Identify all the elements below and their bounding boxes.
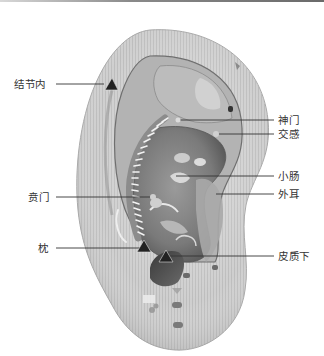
label-jiejienei: 结节内 <box>14 78 46 90</box>
label-benmen: 贲门 <box>28 191 49 203</box>
label-jiaogan: 交感 <box>278 128 299 140</box>
label-pizhixia: 皮质下 <box>278 250 310 262</box>
point-shenmen <box>176 118 181 123</box>
point-benmen <box>150 194 156 200</box>
ear-diagram <box>0 0 324 356</box>
label-waier: 外耳 <box>278 188 299 200</box>
label-shenmen: 神门 <box>278 114 299 126</box>
point-jiaogan <box>213 131 219 137</box>
label-zhen: 枕 <box>38 242 49 254</box>
label-xiaochang: 小肠 <box>278 170 299 182</box>
